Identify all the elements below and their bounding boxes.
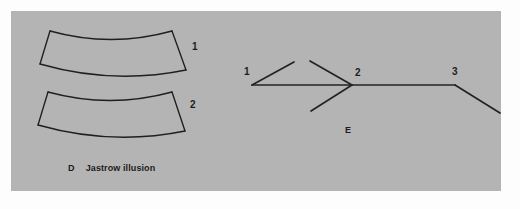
- jastrow-shape-2-right-edge: [172, 92, 185, 131]
- jastrow-shape-1-top-arc: [50, 31, 172, 40]
- jastrow-shape-1: [40, 31, 186, 76]
- figure-drawing: [0, 0, 520, 209]
- muller-lyer-fin-vertex2-upper: [310, 61, 352, 85]
- muller-lyer-vertex-1-label: 1: [244, 67, 250, 77]
- muller-lyer-fin-vertex2-lower: [311, 85, 352, 111]
- jastrow-shape-1-right-edge: [172, 31, 186, 70]
- panel-d-caption-letter: D: [68, 163, 75, 173]
- muller-lyer-figure: [252, 61, 500, 113]
- jastrow-shape-2-label: 2: [190, 100, 196, 110]
- jastrow-shape-2: [38, 92, 185, 137]
- jastrow-shape-2-top-arc: [48, 92, 172, 101]
- jastrow-shape-2-bottom-arc: [38, 125, 185, 137]
- muller-lyer-vertex-2-label: 2: [355, 68, 361, 78]
- muller-lyer-fin-vertex1-upper: [252, 62, 294, 85]
- jastrow-shape-1-label: 1: [192, 42, 198, 52]
- panel-e-caption-letter: E: [345, 126, 351, 135]
- figure-root: 1 2 DJastrow illusion 1 2 3 E: [0, 0, 520, 209]
- jastrow-shape-2-left-edge: [38, 92, 48, 125]
- jastrow-shape-1-left-edge: [40, 31, 50, 64]
- muller-lyer-fin-vertex3-lower: [455, 85, 500, 113]
- panel-d-caption: DJastrow illusion: [68, 164, 155, 173]
- muller-lyer-vertex-3-label: 3: [452, 67, 458, 77]
- jastrow-shape-1-bottom-arc: [40, 64, 186, 76]
- panel-d-caption-text: Jastrow illusion: [86, 163, 156, 173]
